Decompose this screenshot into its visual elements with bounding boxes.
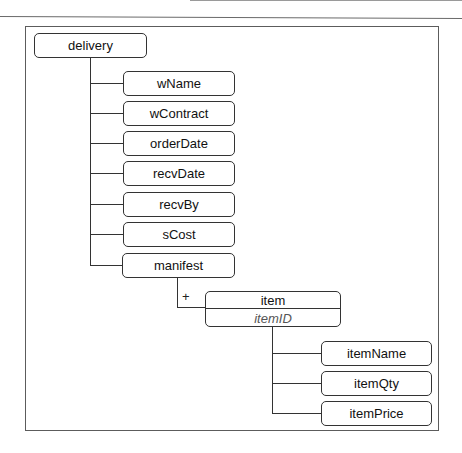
node-label: recvDate xyxy=(153,166,205,181)
node-label: sCost xyxy=(162,227,195,242)
node-label: itemQty xyxy=(354,376,399,391)
top-rule xyxy=(190,0,462,1)
connector-item-trunk xyxy=(272,327,273,414)
node-wcontract: wContract xyxy=(123,101,235,126)
node-label: orderDate xyxy=(150,136,208,151)
connector-manifest-right xyxy=(177,307,206,308)
node-itemname: itemName xyxy=(321,341,432,366)
cardinality-plus: + xyxy=(182,289,190,304)
node-item-name: item xyxy=(206,292,340,309)
node-label: delivery xyxy=(68,38,113,53)
node-label: manifest xyxy=(154,258,203,273)
connector-branch xyxy=(90,83,123,84)
node-label: wContract xyxy=(150,106,209,121)
node-label: recvBy xyxy=(159,197,199,212)
node-item: item itemID xyxy=(205,291,341,327)
node-manifest: manifest xyxy=(122,253,235,278)
header-rule xyxy=(0,16,462,19)
connector-manifest-down xyxy=(177,278,178,308)
connector-branch xyxy=(90,113,123,114)
node-item-key: itemID xyxy=(206,309,340,327)
connector-branch xyxy=(90,265,123,266)
node-label: itemName xyxy=(347,346,406,361)
node-recvdate: recvDate xyxy=(123,161,235,186)
connector-branch xyxy=(90,173,123,174)
node-scost: sCost xyxy=(123,222,235,247)
node-orderdate: orderDate xyxy=(123,131,235,156)
connector-branch xyxy=(272,383,321,384)
node-label: itemPrice xyxy=(349,406,403,421)
connector-branch xyxy=(272,353,321,354)
connector-branch xyxy=(272,413,321,414)
connector-branch xyxy=(90,234,123,235)
node-itemprice: itemPrice xyxy=(321,401,432,426)
connector-branch xyxy=(90,143,123,144)
node-wname: wName xyxy=(123,71,235,96)
node-recvby: recvBy xyxy=(123,192,235,217)
connector-branch xyxy=(90,204,123,205)
node-delivery: delivery xyxy=(34,33,147,58)
node-itemqty: itemQty xyxy=(321,371,432,396)
node-label: wName xyxy=(157,76,201,91)
